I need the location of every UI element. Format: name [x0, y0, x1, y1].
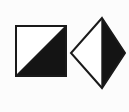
shapes-illustration: [0, 0, 129, 112]
figure-canvas: [0, 0, 129, 112]
half-filled-square: [16, 26, 66, 76]
